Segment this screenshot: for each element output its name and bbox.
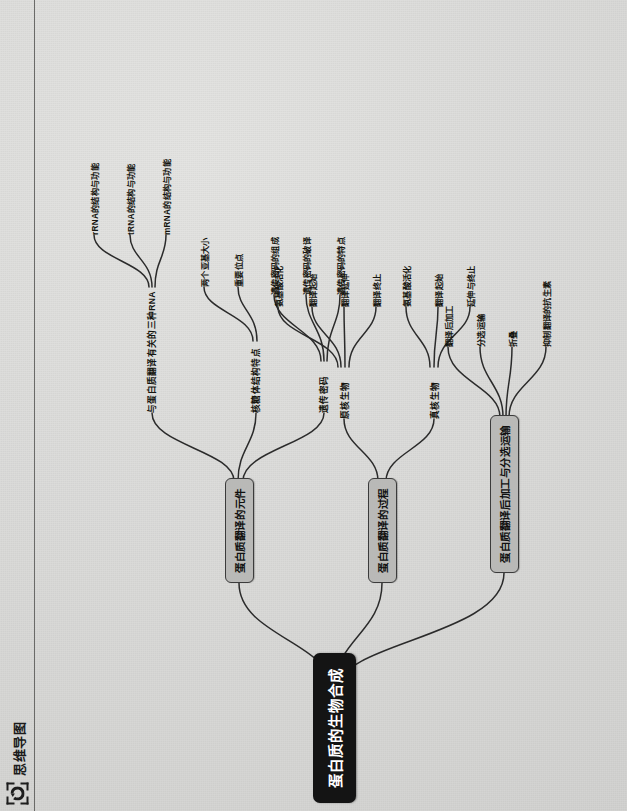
app-header: 思维导图 xyxy=(0,0,34,811)
mindmap-leaf[interactable]: rRNA的结构与功能 xyxy=(87,163,101,235)
mindmap-subnode[interactable]: 核糖体结构特点 xyxy=(248,348,262,413)
mindmap-subnode[interactable]: 遗传密码 xyxy=(316,376,330,413)
mindmap-leaf[interactable]: 氨基酸活化 xyxy=(399,266,413,308)
mindmap-leaf[interactable]: 氨基酸活化 xyxy=(271,266,285,308)
mindmap-leaf[interactable]: 翻译终止 xyxy=(369,274,383,307)
mindmap-branch-node[interactable]: 蛋白质翻译的过程 xyxy=(368,478,397,583)
mindmap-canvas: 蛋白质的生物合成 蛋白质翻译的元件 蛋白质翻译的过程 蛋白质翻译后加工与分选运输… xyxy=(34,0,627,811)
mindmap-leaf[interactable]: 翻译起始 xyxy=(431,274,445,307)
mindmap-branch-node[interactable]: 蛋白质翻译后加工与分选运输 xyxy=(490,415,519,573)
mindmap-leaf[interactable]: 重要位点 xyxy=(231,254,245,287)
mindmap-leaf[interactable]: 两个亚基大小 xyxy=(197,237,211,287)
header-title: 思维导图 xyxy=(8,722,27,776)
mindmap-subnode[interactable]: 原核生物 xyxy=(337,382,351,419)
mindmap-leaf[interactable]: 翻译起始 xyxy=(305,274,319,307)
mindmap-leaf[interactable]: 延伸与终止 xyxy=(463,266,477,308)
mindmap-subnode[interactable]: 真核生物 xyxy=(427,382,441,419)
mindmap-leaf[interactable]: 分选运输 xyxy=(473,314,487,347)
mindmap-leaf[interactable]: 翻译延伸 xyxy=(337,274,351,307)
mindmap-subnode[interactable]: 与蛋白质翻译有关的三种RNA xyxy=(144,291,158,413)
mindmap-leaf[interactable]: 翻译后加工 xyxy=(441,306,455,348)
mindmap-root-node[interactable]: 蛋白质的生物合成 xyxy=(313,653,356,803)
mindmap-leaf[interactable]: 抑制翻译的抗生素 xyxy=(539,281,553,347)
mindmap-leaf[interactable]: mRNA的结构与功能 xyxy=(159,159,173,235)
mindmap-leaf[interactable]: tRNA的结构与功能 xyxy=(123,164,137,235)
mindmap-leaf[interactable]: 折叠 xyxy=(505,330,519,347)
mindmap-branch-node[interactable]: 蛋白质翻译的元件 xyxy=(225,478,254,583)
refresh-circle-icon[interactable] xyxy=(7,783,29,805)
